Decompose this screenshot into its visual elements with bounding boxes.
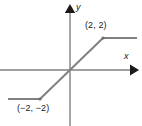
point-marker-upper [101,36,104,39]
point-label-lower: (−2, −2) [17,104,49,113]
point-marker-lower [38,97,41,100]
x-axis-arrowhead [130,65,139,76]
y-axis-arrowhead [65,4,75,13]
function-curve [8,38,137,99]
y-axis-label: y [76,3,81,12]
x-axis-label: x [124,52,129,61]
piecewise-graph-figure: y x (2, 2) (−2, −2) [0,0,142,126]
point-label-upper: (2, 2) [85,21,107,30]
